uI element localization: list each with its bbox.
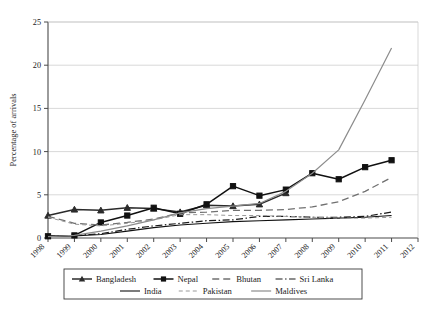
chart-svg: 0510152025199819992000200120022003200420… xyxy=(0,0,429,311)
x-tick-label: 1998 xyxy=(28,242,46,260)
x-tick-label: 2002 xyxy=(134,242,152,260)
x-tick-label: 1999 xyxy=(55,242,73,260)
marker-square-nepal xyxy=(151,205,156,210)
y-axis-label: Percentage of arrivals xyxy=(9,93,18,166)
x-tick-label: 2007 xyxy=(266,242,284,260)
y-tick-label: 5 xyxy=(37,191,41,200)
x-tick-label: 2001 xyxy=(108,242,126,260)
x-tick-label: 2006 xyxy=(240,242,258,260)
x-tick-label: 2004 xyxy=(187,242,205,260)
marker-square-nepal xyxy=(125,213,130,218)
x-tick-label: 2010 xyxy=(346,242,364,260)
marker-square-nepal xyxy=(230,184,235,189)
y-tick-label: 10 xyxy=(33,148,41,157)
marker-square-nepal xyxy=(336,177,341,182)
x-tick-label: 2012 xyxy=(398,242,416,260)
x-tick-label: 2011 xyxy=(372,242,390,260)
legend-label-pakistan: Pakistan xyxy=(203,286,233,296)
y-tick-label: 0 xyxy=(37,234,41,243)
series-line-maldives xyxy=(48,48,392,237)
line-chart: 0510152025199819992000200120022003200420… xyxy=(0,0,429,311)
x-tick-label: 2003 xyxy=(161,242,179,260)
marker-square-nepal xyxy=(363,165,368,170)
marker-square-nepal xyxy=(204,202,209,207)
legend-label-sri-lanka: Sri Lanka xyxy=(300,274,334,284)
x-tick-label: 2000 xyxy=(81,242,99,260)
legend-marker-square xyxy=(161,276,166,281)
x-tick-label: 2005 xyxy=(213,242,231,260)
marker-square-nepal xyxy=(257,193,262,198)
marker-square-nepal xyxy=(389,158,394,163)
legend-label-bangladesh: Bangladesh xyxy=(96,274,137,284)
y-tick-label: 15 xyxy=(33,104,41,113)
legend-label-maldives: Maldives xyxy=(275,286,308,296)
x-tick-label: 2008 xyxy=(293,242,311,260)
x-tick-label: 2009 xyxy=(319,242,337,260)
legend-label-nepal: Nepal xyxy=(178,274,199,284)
legend-label-india: India xyxy=(144,286,162,296)
legend-label-bhutan: Bhutan xyxy=(236,274,262,284)
y-tick-label: 20 xyxy=(33,61,41,70)
y-tick-label: 25 xyxy=(33,18,41,27)
